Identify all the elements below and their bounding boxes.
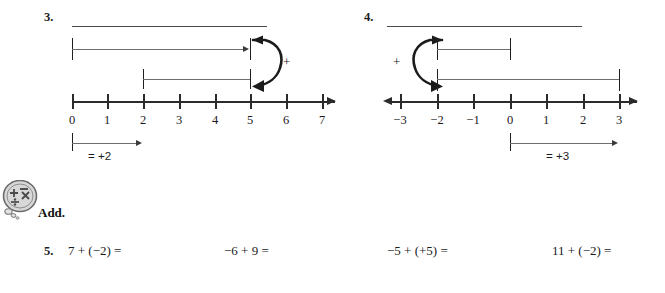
axis-label: 2 — [133, 113, 153, 128]
problem-4: 4. + −3 −2 −1 0 — [350, 0, 665, 178]
axis-tick — [437, 94, 439, 109]
math-operations-badge-icon — [1, 180, 43, 226]
number-line-axis — [72, 101, 335, 103]
problem-4-number: 4. — [364, 10, 373, 25]
legend-arrowhead — [612, 140, 618, 146]
axis-label: −3 — [388, 113, 412, 128]
legend-bar — [510, 143, 613, 144]
axis-label: 1 — [97, 113, 117, 128]
operator-plus-sign: + — [393, 54, 400, 70]
axis-tick — [510, 94, 512, 109]
axis-tick — [473, 94, 475, 109]
exercise-expression[interactable]: −5 + (+5) = — [387, 243, 448, 259]
bar2-cap-end — [619, 69, 620, 91]
axis-label: 0 — [62, 113, 82, 128]
axis-tick — [322, 94, 324, 109]
operator-plus-sign: + — [283, 54, 290, 70]
section-title: Add. — [38, 205, 65, 221]
axis-tick — [286, 94, 288, 109]
legend-cap — [72, 133, 73, 151]
span-bar-top — [437, 49, 510, 50]
axis-tick — [250, 94, 252, 109]
legend-label: = +2 — [88, 150, 111, 162]
span-bar-top-arrowhead — [243, 46, 249, 52]
axis-arrow-right — [629, 97, 638, 105]
exercise-expression[interactable]: −6 + 9 = — [224, 243, 269, 259]
axis-tick — [400, 94, 402, 109]
axis-tick — [619, 94, 621, 109]
legend-label: = +3 — [546, 150, 569, 162]
axis-label: −2 — [425, 113, 449, 128]
span-bar-bottom — [143, 79, 250, 80]
axis-tick — [107, 94, 109, 109]
span-bar-top — [72, 49, 244, 50]
axis-label: 7 — [312, 113, 332, 128]
legend-bar — [72, 143, 137, 144]
problem-3-number: 3. — [44, 10, 53, 25]
span-bar-bottom — [437, 79, 619, 80]
axis-tick — [546, 94, 548, 109]
axis-label: 4 — [205, 113, 225, 128]
axis-arrow-right — [327, 97, 336, 105]
axis-label: 3 — [607, 113, 631, 128]
axis-label: −1 — [461, 113, 485, 128]
legend-arrowhead — [136, 140, 142, 146]
problem-3-answer-blank[interactable] — [72, 26, 267, 27]
axis-label: 1 — [534, 113, 558, 128]
bar-cap-end — [510, 38, 511, 60]
axis-tick — [143, 94, 145, 109]
axis-tick — [179, 94, 181, 109]
axis-tick — [583, 94, 585, 109]
number-line-axis — [392, 101, 637, 103]
legend-cap — [510, 133, 511, 151]
axis-arrow-left — [383, 97, 392, 105]
axis-label: 5 — [240, 113, 260, 128]
bar2-cap-start — [437, 69, 438, 91]
exercise-expression[interactable]: 11 + (−2) = — [552, 243, 611, 259]
axis-label: 6 — [276, 113, 296, 128]
axis-label: 0 — [498, 113, 522, 128]
problem-3: 3. + 0 1 2 3 — [0, 0, 350, 178]
axis-label: 3 — [169, 113, 189, 128]
problem-4-answer-blank[interactable] — [387, 26, 582, 27]
axis-tick — [72, 94, 74, 109]
exercise-5-number: 5. — [44, 244, 53, 259]
worksheet-page: 3. + 0 1 2 3 — [0, 0, 665, 293]
curved-operator-arrow — [405, 34, 445, 96]
axis-tick — [215, 94, 217, 109]
axis-label: 2 — [571, 113, 595, 128]
exercise-expression[interactable]: 7 + (−2) = — [68, 243, 121, 259]
